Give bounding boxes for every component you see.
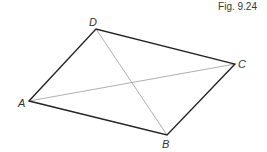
rhombus-diagram: A B C D [0, 0, 267, 152]
vertex-label-d: D [89, 16, 97, 28]
vertex-label-a: A [17, 97, 25, 109]
vertex-label-c: C [238, 58, 246, 70]
diagonal-bd [96, 29, 167, 135]
diagonals [29, 29, 235, 135]
vertex-label-b: B [162, 138, 169, 150]
quadrilateral-abcd [29, 29, 235, 135]
